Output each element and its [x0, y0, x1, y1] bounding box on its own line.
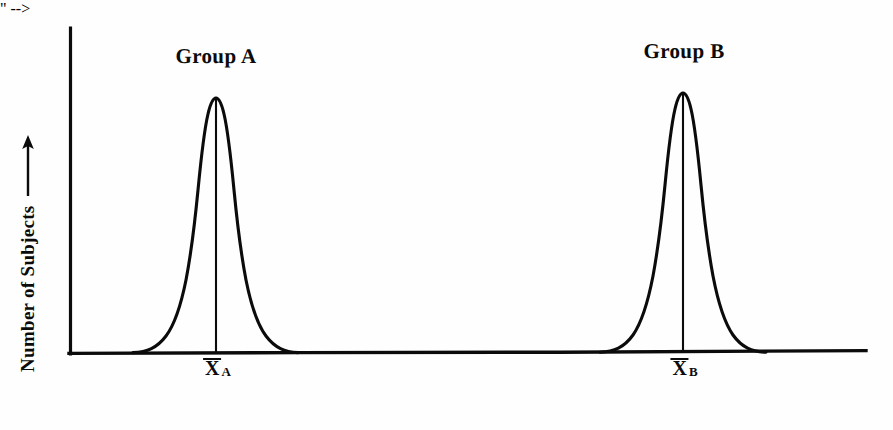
group-b-mean-symbol: X [671, 358, 687, 378]
group-a-mean-label: XA [204, 358, 230, 378]
group-b-mean-label: XB [671, 358, 696, 378]
statistics-figure: " --> Number of Subjects Group A Group B… [0, 0, 893, 430]
curve-group-b [600, 93, 766, 352]
curve-group-a [133, 98, 298, 353]
group-a-title: Group A [175, 44, 256, 69]
distribution-plot-canvas [0, 0, 893, 430]
group-a-mean-subscript: A [222, 364, 231, 379]
group-b-title: Group B [643, 39, 724, 64]
x-axis-line [69, 351, 866, 354]
group-a-mean-symbol: X [204, 358, 220, 378]
group-b-mean-subscript: B [689, 364, 698, 379]
